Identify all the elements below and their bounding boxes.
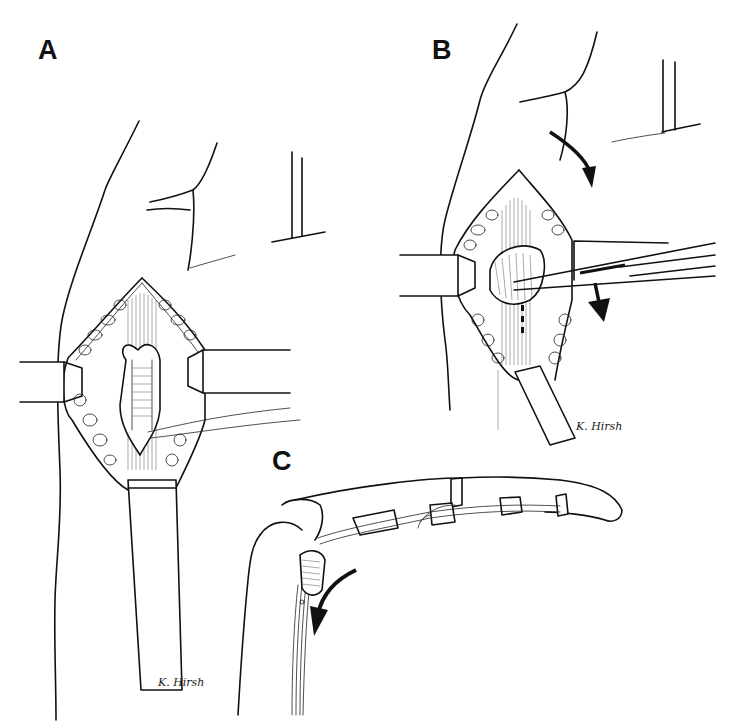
panel-a-illustration: [20, 121, 325, 720]
signature-b: K. Hirsh: [576, 420, 622, 433]
signature-a: K. Hirsh: [158, 676, 204, 689]
panel-b-illustration: [400, 24, 715, 445]
panel-c-illustration: [238, 477, 622, 715]
